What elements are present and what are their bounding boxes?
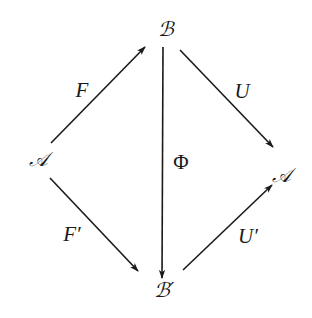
label-Phi: Φ bbox=[173, 150, 188, 174]
arrow-F bbox=[51, 47, 145, 143]
label-F-prime: F′ bbox=[62, 222, 81, 246]
label-U-prime: U′ bbox=[238, 224, 258, 248]
commutative-diagram: 𝒜 ℬ 𝒜 ℬ′ F U Φ F′ U′ bbox=[0, 0, 312, 318]
label-F: F bbox=[75, 78, 89, 102]
arrow-U-prime bbox=[183, 185, 272, 270]
node-A-left: 𝒜 bbox=[29, 147, 54, 171]
node-B-bottom: ℬ′ bbox=[154, 278, 175, 302]
arrow-U bbox=[180, 50, 273, 147]
node-B-top: ℬ bbox=[158, 17, 175, 41]
arrow-Phi bbox=[162, 47, 163, 278]
node-A-right: 𝒜 bbox=[272, 163, 297, 187]
label-U: U bbox=[234, 79, 251, 103]
